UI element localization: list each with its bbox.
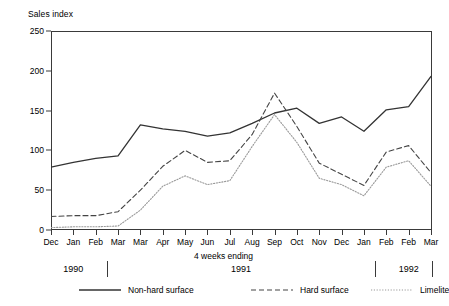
year-divider [107, 261, 108, 277]
x-axis-tick-mark [431, 230, 432, 235]
year-band: 199019911992 [51, 264, 432, 280]
year-divider [432, 261, 433, 277]
x-axis-tick-label: Oct [290, 237, 303, 247]
y-axis-tick-mark [46, 110, 51, 111]
x-axis-tick-mark [364, 230, 365, 235]
legend-swatch-solid [79, 286, 121, 294]
x-axis-tick-mark [275, 230, 276, 235]
chart-legend: Non-hard surfaceHard surfaceLimelite [51, 285, 437, 299]
x-axis-tick-mark [51, 230, 52, 235]
legend-label: Hard surface [300, 285, 349, 295]
x-axis-tick-label: Nov [312, 237, 327, 247]
y-axis-label: Sales index [28, 9, 73, 19]
legend-item: Hard surface [251, 285, 349, 295]
x-axis-label: 4 weeks ending [0, 251, 447, 261]
legend-label: Limelite [420, 285, 449, 295]
y-axis-tick-mark [46, 190, 51, 191]
x-axis-tick-mark [163, 230, 164, 235]
x-axis-tick-label: Mar [111, 237, 126, 247]
x-axis-tick-mark [185, 230, 186, 235]
plot-lines [51, 31, 432, 230]
x-axis-tick-mark [319, 230, 320, 235]
x-axis-tick-mark [342, 230, 343, 235]
x-axis-tick-label: Feb [401, 237, 416, 247]
x-axis-tick-mark [207, 230, 208, 235]
x-axis-tick-label: Feb [88, 237, 103, 247]
plot-area: 050100150200250DecJanFebMarMarAprMayJunJ… [51, 31, 432, 230]
x-axis-tick-label: Apr [156, 237, 169, 247]
x-axis-tick-mark [230, 230, 231, 235]
legend-swatch-dotted [371, 286, 413, 294]
x-axis-tick-mark [140, 230, 141, 235]
x-axis-tick-mark [386, 230, 387, 235]
x-axis-tick-label: Jan [357, 237, 371, 247]
x-axis-tick-mark [73, 230, 74, 235]
legend-item: Limelite [371, 285, 449, 295]
x-axis-tick-mark [96, 230, 97, 235]
year-label: 1991 [231, 264, 251, 274]
x-axis-tick-mark [409, 230, 410, 235]
x-axis-tick-label: Mar [133, 237, 148, 247]
series-line [51, 115, 431, 228]
y-axis-tick-mark [46, 150, 51, 151]
x-axis-tick-label: Jul [224, 237, 235, 247]
x-axis-tick-mark [252, 230, 253, 235]
x-axis-tick-label: Dec [334, 237, 349, 247]
y-axis-tick-mark [46, 31, 51, 32]
year-label: 1992 [399, 264, 419, 274]
series-line [51, 76, 431, 167]
x-axis-tick-label: May [177, 237, 193, 247]
x-axis-tick-label: Sep [267, 237, 282, 247]
x-axis-tick-label: Mar [424, 237, 439, 247]
x-axis-tick-mark [297, 230, 298, 235]
legend-item: Non-hard surface [79, 285, 194, 295]
x-axis-tick-label: Jun [201, 237, 215, 247]
legend-label: Non-hard surface [128, 285, 194, 295]
series-line [51, 93, 431, 216]
x-axis-tick-mark [118, 230, 119, 235]
legend-swatch-dashed [251, 286, 293, 294]
y-axis-tick-mark [46, 70, 51, 71]
year-divider [375, 261, 376, 277]
x-axis-tick-label: Feb [379, 237, 394, 247]
year-label: 1990 [63, 264, 83, 274]
x-axis-tick-label: Aug [245, 237, 260, 247]
x-axis-tick-label: Dec [43, 237, 58, 247]
x-axis-tick-label: Jan [66, 237, 80, 247]
